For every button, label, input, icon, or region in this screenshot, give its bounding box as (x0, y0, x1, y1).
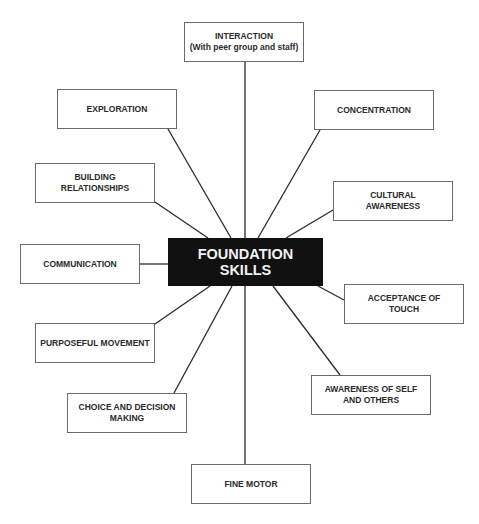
node-concentration: CONCENTRATION (314, 90, 434, 130)
node-building-relationships: BUILDING RELATIONSHIPS (35, 163, 155, 203)
connector-purposeful-movement (155, 286, 210, 324)
node-label: INTERACTION (With peer group and staff) (190, 31, 299, 53)
node-acceptance-of-touch: ACCEPTANCE OF TOUCH (344, 284, 464, 324)
node-label: BUILDING RELATIONSHIPS (61, 172, 129, 194)
connector-choice-and-decision-making (174, 286, 232, 393)
connector-awareness-of-self-and-others (273, 286, 340, 375)
connector-concentration (258, 130, 320, 238)
connector-building-relationships (155, 202, 208, 238)
central-node-label: FOUNDATION SKILLS (198, 246, 294, 278)
node-interaction: INTERACTION (With peer group and staff) (184, 22, 304, 62)
node-cultural-awareness: CULTURAL AWARENESS (333, 181, 453, 221)
node-fine-motor: FINE MOTOR (191, 464, 311, 504)
node-label: FINE MOTOR (224, 479, 277, 490)
central-node-foundation-skills: FOUNDATION SKILLS (168, 238, 323, 286)
node-label: CONCENTRATION (337, 105, 411, 116)
node-awareness-of-self-and-others: AWARENESS OF SELF AND OTHERS (311, 375, 431, 415)
node-communication: COMMUNICATION (20, 244, 140, 284)
connector-cultural-awareness (286, 210, 333, 238)
node-label: COMMUNICATION (43, 259, 117, 270)
node-label: CULTURAL AWARENESS (366, 190, 420, 212)
connector-exploration (168, 129, 231, 238)
connector-acceptance-of-touch (318, 286, 344, 300)
node-label: CHOICE AND DECISION MAKING (79, 402, 176, 424)
node-label: AWARENESS OF SELF AND OTHERS (325, 384, 418, 406)
node-purposeful-movement: PURPOSEFUL MOVEMENT (35, 323, 155, 363)
node-label: EXPLORATION (87, 104, 148, 115)
node-exploration: EXPLORATION (57, 89, 177, 129)
node-label: PURPOSEFUL MOVEMENT (40, 338, 149, 349)
node-label: ACCEPTANCE OF TOUCH (368, 293, 441, 315)
node-choice-and-decision-making: CHOICE AND DECISION MAKING (67, 393, 187, 433)
